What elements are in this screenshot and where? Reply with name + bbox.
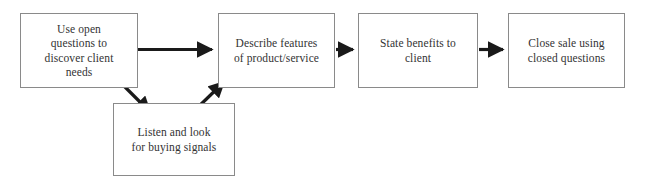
node-state-benefits[interactable]: State benefits to client	[358, 13, 478, 88]
node-describe-features[interactable]: Describe features of product/service	[218, 13, 335, 88]
node-label: State benefits to client	[376, 36, 460, 65]
node-discover-client-needs[interactable]: Use open questions to discover client ne…	[20, 13, 138, 88]
node-listen-buying-signals[interactable]: Listen and look for buying signals	[113, 103, 235, 176]
node-label: Listen and look for buying signals	[128, 125, 221, 154]
node-close-sale[interactable]: Close sale using closed questions	[508, 13, 625, 88]
flowchart-canvas: Use open questions to discover client ne…	[0, 0, 645, 186]
node-label: Close sale using closed questions	[524, 36, 609, 65]
node-label: Describe features of product/service	[230, 36, 323, 65]
node-label: Use open questions to discover client ne…	[41, 22, 118, 80]
